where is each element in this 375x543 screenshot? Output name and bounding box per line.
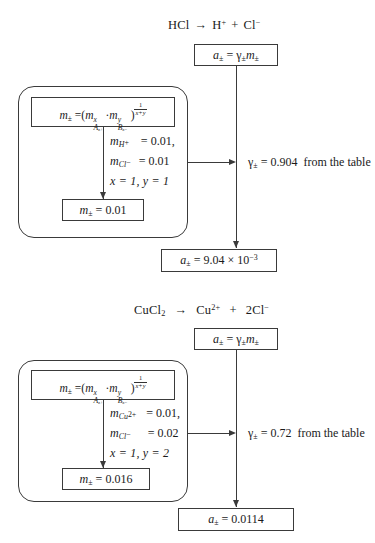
equals-sign: = <box>226 332 233 346</box>
activity-symbol-sub: ± <box>219 338 223 347</box>
final-equals: = <box>222 512 229 526</box>
param-xy-values: x = 1, y = 2 <box>110 443 180 463</box>
gamma-note-value: 0.72 <box>270 426 291 440</box>
result-value: 0.016 <box>105 472 132 486</box>
parameter-row: mH+ = 0.01, <box>110 131 175 151</box>
formula-exponent-fraction: 1x+y <box>134 375 146 389</box>
activity-definition-box-hcl: a± = γ±m± <box>194 44 278 66</box>
inner-flow-arrowhead-cucl2 <box>100 461 106 468</box>
param-symbol: m <box>110 406 119 420</box>
formula-lhs-sub: ± <box>68 388 72 397</box>
reaction-reactant: CuCl <box>134 303 161 317</box>
formula-exponent-fraction: 1x+y <box>134 102 146 116</box>
mean-molality-result-box-cucl2: m± = 0.016 <box>62 468 150 490</box>
result-value: 0.01 <box>105 203 126 217</box>
parameter-row: mCu2+ = 0.01, <box>110 403 180 423</box>
reaction-anion-charge: − <box>264 303 269 312</box>
result-symbol-sub: ± <box>88 478 92 487</box>
parameter-list-hcl: mH+ = 0.01, mCl− = 0.01 x = 1, y = 1 <box>110 131 175 191</box>
param-value: 0.02 <box>157 426 178 440</box>
param-equals: = <box>141 134 148 148</box>
mean-molality-result-box-hcl: m± = 0.01 <box>62 199 144 221</box>
reaction-equation-hcl: HCl→H++Cl− <box>168 18 261 33</box>
gamma-note-sub: ± <box>253 161 257 170</box>
final-equals: = <box>194 253 201 267</box>
reaction-plus: + <box>220 303 245 317</box>
param-xy-values: x = 1, y = 1 <box>110 171 175 191</box>
gamma-note-source: from the table <box>303 155 370 169</box>
reaction-anion: Cl <box>243 18 255 32</box>
param-charge: − <box>126 430 130 439</box>
activity-symbol-sub: ± <box>219 54 223 63</box>
reaction-cation: Cu <box>196 303 211 317</box>
param-value: 0.01 <box>148 154 169 168</box>
formula-lhs: m <box>59 110 67 122</box>
gamma-table-note-cucl2: γ± = 0.72 from the table <box>248 426 365 441</box>
reaction-anion-charge: − <box>256 18 261 27</box>
mean-molality-formula-box-hcl: m± =(mAz+x·mBz−y)1x+y <box>31 97 175 127</box>
result-symbol: m <box>80 472 89 486</box>
formula-term1-sup: x <box>93 388 96 397</box>
final-mantissa: 9.04 <box>203 253 224 267</box>
result-equals: = <box>96 203 103 217</box>
reaction-reactant-sub: 2 <box>161 309 165 318</box>
figure-canvas: HCl→H++Cl− a± = γ±m± m± =(mAz+x·mBz−y)1x… <box>0 0 375 543</box>
molality-symbol-sub: ± <box>255 338 259 347</box>
molality-symbol: m <box>246 332 255 346</box>
inner-flow-line-cucl2 <box>103 400 104 468</box>
gamma-table-note-hcl: γ± = 0.904 from the table <box>248 155 371 170</box>
final-activity-box-cucl2: a± = 0.0114 <box>178 508 294 531</box>
final-base: 10 <box>237 253 249 267</box>
formula-term2-sup: y <box>118 115 121 124</box>
final-value: 0.0114 <box>231 512 264 526</box>
parameter-row: mCl− = 0.01 <box>110 151 175 171</box>
molality-symbol: m <box>246 48 255 62</box>
final-symbol-sub: ± <box>214 518 218 527</box>
gamma-note-sub: ± <box>253 432 257 441</box>
result-symbol-sub: ± <box>88 209 92 218</box>
main-flow-arrowhead-hcl <box>233 241 239 248</box>
param-value: 0.01, <box>151 134 175 148</box>
param-equals: = <box>146 406 153 420</box>
formula-term2-sup: y <box>118 388 121 397</box>
reaction-arrow-icon: → <box>189 18 212 32</box>
group-to-main-arrowhead-hcl <box>229 159 236 165</box>
result-equals: = <box>96 472 103 486</box>
group-to-main-connector-cucl2 <box>188 433 230 434</box>
reaction-arrow-icon: → <box>166 303 197 317</box>
param-value: 0.01, <box>156 406 180 420</box>
param-symbol: m <box>110 154 119 168</box>
final-activity-box-hcl: a± = 9.04 × 10−3 <box>161 249 277 272</box>
reaction-cation: H <box>212 18 221 32</box>
inner-flow-arrowhead-hcl <box>100 192 106 199</box>
formula-term2-base: m <box>109 110 117 122</box>
parameter-row: mCl− = 0.02 <box>110 423 180 443</box>
formula-lhs-sub: ± <box>68 115 72 124</box>
molality-symbol-sub: ± <box>255 54 259 63</box>
param-charge: + <box>124 138 128 147</box>
reaction-equation-cucl2: CuCl2→Cu2++2Cl− <box>134 303 269 318</box>
formula-term2-base: m <box>109 383 117 395</box>
formula-term1-sup: x <box>93 115 96 124</box>
inner-flow-line-hcl <box>103 127 104 199</box>
main-flow-arrowhead-cucl2 <box>233 500 239 507</box>
param-equals: = <box>139 154 146 168</box>
activity-definition-box-cucl2: a± = γ±m± <box>194 328 278 350</box>
formula-lhs: m <box>59 383 67 395</box>
equals-sign: = <box>226 48 233 62</box>
formula-exponent-denominator: x+y <box>134 110 146 117</box>
main-flow-line-cucl2 <box>236 350 237 507</box>
group-to-main-arrowhead-cucl2 <box>229 430 236 436</box>
gamma-note-equals: = <box>261 426 268 440</box>
reaction-anion: Cl <box>252 303 264 317</box>
param-species: Cu <box>119 412 128 421</box>
reaction-plus: + <box>226 18 243 32</box>
parameter-list-cucl2: mCu2+ = 0.01, mCl− = 0.02 x = 1, y = 2 <box>110 403 180 463</box>
main-flow-line-hcl <box>236 66 237 248</box>
param-equals: = <box>148 426 155 440</box>
gamma-note-source: from the table <box>297 426 364 440</box>
final-exponent: −3 <box>249 253 257 262</box>
param-charge: 2+ <box>128 410 136 419</box>
final-symbol-sub: ± <box>186 259 190 268</box>
reaction-reactant: HCl <box>168 18 189 32</box>
